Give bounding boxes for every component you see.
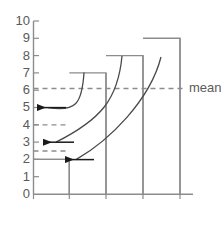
- y-tick-label-5: 5: [23, 99, 30, 114]
- y-tick-label-7: 7: [23, 65, 30, 80]
- mean-reference-line: mean: [34, 80, 222, 95]
- chart-container: 10 9 8 7 6 5 4 3 2 1 0: [0, 0, 221, 234]
- y-tick-label-3: 3: [23, 134, 30, 149]
- mean-line-label: mean: [189, 80, 221, 95]
- bar-series: [34, 38, 181, 194]
- y-tick-label-2: 2: [23, 151, 30, 166]
- curve-from-bar-2-to-5: [48, 73, 84, 109]
- y-tick-label-9: 9: [23, 30, 30, 45]
- curve-from-bar-3-to-3: [56, 56, 122, 142]
- redistribution-arrows: [38, 108, 94, 160]
- y-tick-label-0: 0: [23, 186, 30, 201]
- y-tick-label-1: 1: [23, 169, 30, 184]
- y-axis-ticks: [34, 21, 40, 177]
- y-axis-tick-labels: 10 9 8 7 6 5 4 3 2 1 0: [16, 13, 30, 201]
- bar-chart-mean-balancing: 10 9 8 7 6 5 4 3 2 1 0: [0, 0, 221, 234]
- bar-2: [69, 73, 106, 194]
- y-tick-label-10: 10: [16, 13, 30, 28]
- y-tick-label-8: 8: [23, 48, 30, 63]
- y-tick-label-4: 4: [23, 117, 30, 132]
- bar-3: [106, 56, 143, 195]
- bar-4: [143, 38, 180, 194]
- y-tick-label-6: 6: [23, 82, 30, 97]
